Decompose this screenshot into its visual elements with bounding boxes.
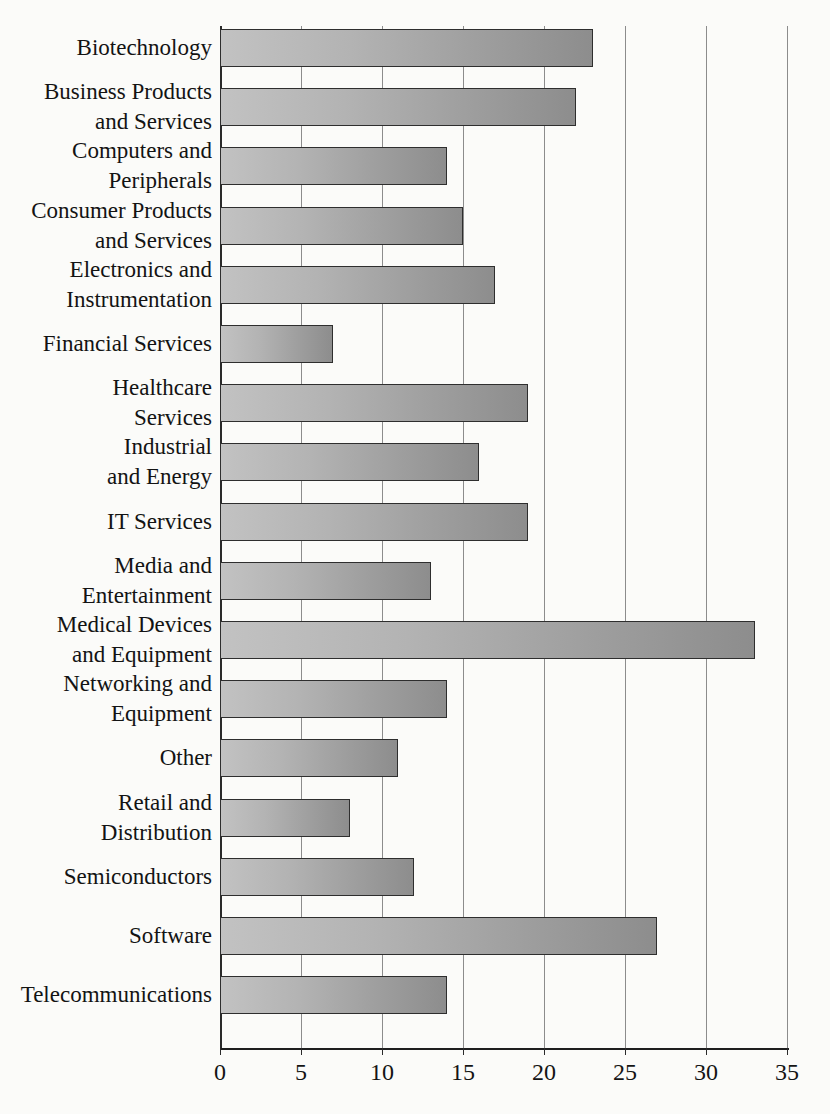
category-label-line: and Services: [8, 107, 212, 137]
category-label: Electronics andInstrumentation: [8, 255, 220, 315]
x-tick-mark-5: [301, 1048, 302, 1055]
bar: [220, 384, 528, 422]
x-tick-label: 35: [757, 1058, 817, 1086]
category-label-line: Biotechnology: [8, 33, 212, 63]
bar: [220, 562, 431, 600]
category-label: Telecommunications: [8, 980, 220, 1010]
category-label: Semiconductors: [8, 862, 220, 892]
category-label-line: Healthcare: [8, 373, 212, 403]
bar: [220, 325, 333, 363]
bar: [220, 799, 350, 837]
bar: [220, 680, 447, 718]
category-label-line: Entertainment: [8, 581, 212, 611]
category-label-line: IT Services: [8, 507, 212, 537]
category-label-line: Electronics and: [8, 255, 212, 285]
category-label: HealthcareServices: [8, 373, 220, 433]
x-tick-mark-35: [787, 1048, 788, 1055]
category-label: Industrialand Energy: [8, 432, 220, 492]
category-label: IT Services: [8, 507, 220, 537]
x-tick-label: 20: [514, 1058, 574, 1086]
gridline-30: [706, 26, 707, 1048]
gridline-35: [787, 26, 788, 1048]
category-label-line: Financial Services: [8, 329, 212, 359]
category-label-line: Networking and: [8, 669, 212, 699]
category-label-line: Media and: [8, 551, 212, 581]
x-tick-label: 5: [271, 1058, 331, 1086]
bar: [220, 266, 495, 304]
category-label-line: Peripherals: [8, 166, 212, 196]
category-label: Medical Devicesand Equipment: [8, 610, 220, 670]
plot-area: [220, 26, 787, 1048]
category-label-line: Business Products: [8, 77, 212, 107]
category-label: Financial Services: [8, 329, 220, 359]
bar: [220, 88, 576, 126]
category-label-line: Industrial: [8, 432, 212, 462]
bar: [220, 29, 593, 67]
category-label-line: Retail and: [8, 788, 212, 818]
bar: [220, 917, 657, 955]
category-label: Other: [8, 743, 220, 773]
category-label: Media andEntertainment: [8, 551, 220, 611]
category-label-line: Instrumentation: [8, 285, 212, 315]
category-axis-labels: BiotechnologyBusiness Productsand Servic…: [0, 26, 220, 1048]
category-label-line: Services: [8, 403, 212, 433]
bar: [220, 443, 479, 481]
category-label: Consumer Productsand Services: [8, 196, 220, 256]
x-tick-label: 15: [433, 1058, 493, 1086]
x-tick-mark-25: [625, 1048, 626, 1055]
category-label: Networking andEquipment: [8, 669, 220, 729]
x-tick-mark-15: [463, 1048, 464, 1055]
category-label: Software: [8, 921, 220, 951]
bar: [220, 207, 463, 245]
category-label-line: and Equipment: [8, 640, 212, 670]
category-label-line: Semiconductors: [8, 862, 212, 892]
x-tick-mark-20: [544, 1048, 545, 1055]
bar: [220, 147, 447, 185]
category-label: Retail andDistribution: [8, 788, 220, 848]
x-tick-label: 30: [676, 1058, 736, 1086]
bar: [220, 976, 447, 1014]
bar-chart: BiotechnologyBusiness Productsand Servic…: [0, 0, 830, 1114]
x-tick-label: 10: [352, 1058, 412, 1086]
category-label-line: Other: [8, 743, 212, 773]
bar: [220, 503, 528, 541]
x-tick-mark-0: [220, 1048, 221, 1055]
category-label-line: Telecommunications: [8, 980, 212, 1010]
gridline-25: [625, 26, 626, 1048]
gridline-20: [544, 26, 545, 1048]
category-label: Business Productsand Services: [8, 77, 220, 137]
x-tick-label: 0: [190, 1058, 250, 1086]
x-axis-line: [220, 1048, 789, 1050]
category-label: Computers andPeripherals: [8, 136, 220, 196]
bar: [220, 858, 414, 896]
category-label-line: Computers and: [8, 136, 212, 166]
bar: [220, 739, 398, 777]
x-tick-label: 25: [595, 1058, 655, 1086]
x-tick-mark-30: [706, 1048, 707, 1055]
x-tick-mark-10: [382, 1048, 383, 1055]
category-label: Biotechnology: [8, 33, 220, 63]
category-label-line: Equipment: [8, 699, 212, 729]
bar: [220, 621, 755, 659]
category-label-line: and Energy: [8, 462, 212, 492]
category-label-line: Consumer Products: [8, 196, 212, 226]
category-label-line: Software: [8, 921, 212, 951]
category-label-line: Medical Devices: [8, 610, 212, 640]
category-label-line: Distribution: [8, 818, 212, 848]
category-label-line: and Services: [8, 226, 212, 256]
